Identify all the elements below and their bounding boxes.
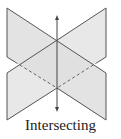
figure-caption: Intersecting bbox=[0, 117, 121, 134]
arrow-down-icon bbox=[55, 107, 59, 112]
arrow-up-icon bbox=[55, 15, 59, 20]
